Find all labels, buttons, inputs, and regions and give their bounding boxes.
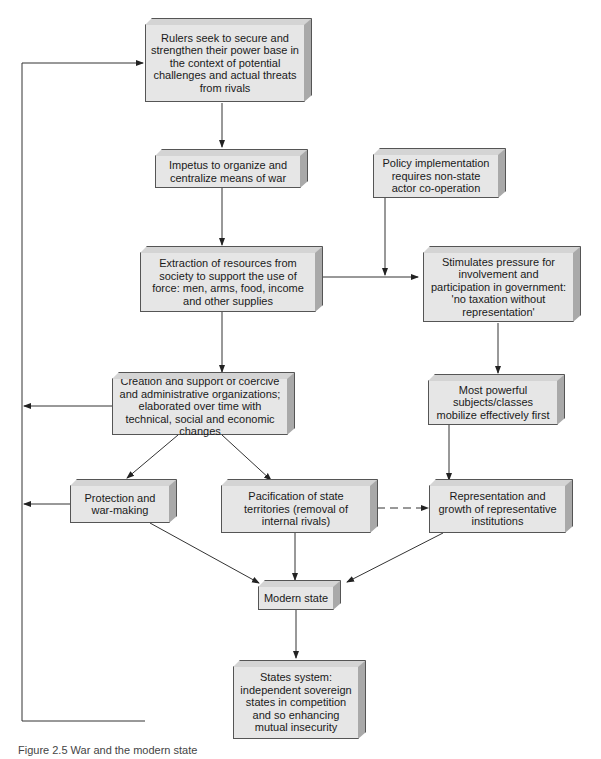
node-rulers: Rulers seek to secure and strengthen the… [145, 24, 305, 102]
node-extraction-label: Extraction of resources from society to … [145, 257, 311, 307]
node-powerful: Most powerful subjects/classes mobilize … [428, 380, 558, 425]
node-protection: Protection and war-making [70, 485, 170, 523]
node-impetus: Impetus to organize and centralize means… [155, 155, 301, 188]
node-pacification-label: Pacification of state territories (remov… [226, 490, 366, 528]
node-states-system: States system: independent sovereign sta… [233, 666, 359, 739]
node-creation: Creation and support of coercive and adm… [112, 378, 288, 435]
node-extraction: Extraction of resources from society to … [140, 252, 316, 312]
node-impetus-label: Impetus to organize and centralize means… [160, 159, 296, 184]
node-policy-label: Policy implementation requires non-state… [378, 157, 494, 195]
node-powerful-label: Most powerful subjects/classes mobilize … [433, 384, 553, 422]
node-modern-state-label: Modern state [264, 592, 328, 605]
node-modern-state: Modern state [258, 586, 334, 610]
node-creation-label: Creation and support of coercive and adm… [117, 375, 283, 438]
node-protection-label: Protection and war-making [75, 492, 165, 517]
node-representation: Representation and growth of representat… [429, 485, 566, 533]
node-stimulates: Stimulates pressure for involvement and … [423, 252, 574, 322]
node-representation-label: Representation and growth of representat… [434, 490, 561, 528]
node-stimulates-label: Stimulates pressure for involvement and … [428, 256, 569, 319]
figure-caption: Figure 2.5 War and the modern state [18, 744, 197, 756]
node-policy: Policy implementation requires non-state… [373, 154, 499, 198]
node-pacification: Pacification of state territories (remov… [221, 485, 371, 533]
node-rulers-label: Rulers seek to secure and strengthen the… [150, 32, 300, 95]
node-states-system-label: States system: independent sovereign sta… [238, 671, 354, 734]
